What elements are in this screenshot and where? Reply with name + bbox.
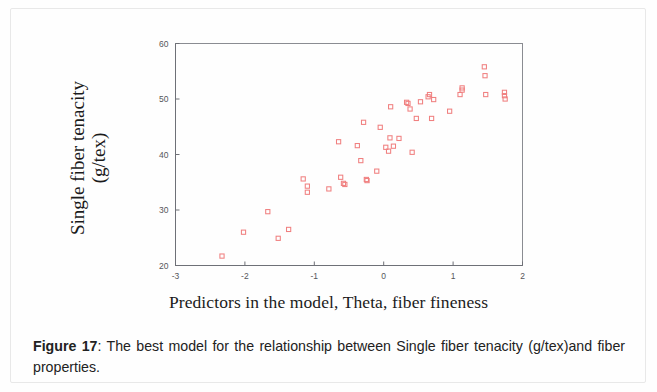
- y-tick-label: 20: [159, 261, 169, 271]
- plot-frame: [176, 44, 523, 266]
- y-tick-label: 40: [159, 150, 169, 160]
- data-point: [408, 107, 412, 111]
- data-point: [305, 184, 309, 188]
- data-point: [220, 254, 224, 258]
- data-point: [361, 120, 365, 124]
- data-point: [276, 236, 280, 240]
- data-point: [410, 150, 414, 154]
- data-point: [241, 230, 245, 234]
- caption-body: The best model for the relationship betw…: [33, 338, 625, 375]
- x-tick-label: 0: [381, 271, 386, 281]
- figure-area: -3-2-10122030405060 Single fiber tenacit…: [0, 0, 657, 325]
- y-axis-label: Single fiber tenacity (g/tex): [46, 38, 130, 278]
- y-tick-label: 30: [159, 205, 169, 215]
- data-point: [391, 144, 395, 148]
- data-point: [483, 74, 487, 78]
- axis-tick-labels: -3-2-10122030405060: [159, 39, 525, 281]
- data-point: [388, 136, 392, 140]
- data-point: [432, 97, 436, 101]
- y-axis-label-line1: Single fiber tenacity: [67, 81, 88, 235]
- y-axis-label-line2: (g/tex): [88, 81, 109, 235]
- x-tick-label: -3: [172, 271, 180, 281]
- figure-number: Figure 17: [33, 338, 97, 354]
- figure-caption: Figure 17: The best model for the relati…: [33, 336, 625, 377]
- data-point: [418, 100, 422, 104]
- data-point: [266, 210, 270, 214]
- data-point: [359, 159, 363, 163]
- data-points: [220, 65, 507, 258]
- data-point: [482, 65, 486, 69]
- y-tick-label: 50: [159, 94, 169, 104]
- data-point: [414, 116, 418, 120]
- data-point: [397, 136, 401, 140]
- data-point: [458, 92, 462, 96]
- data-point: [429, 116, 433, 120]
- plot-axes: [176, 44, 523, 266]
- figure-page: -3-2-10122030405060 Single fiber tenacit…: [0, 0, 657, 392]
- data-point: [378, 125, 382, 129]
- y-tick-label: 60: [159, 39, 169, 49]
- data-point: [355, 144, 359, 148]
- x-tick-label: -2: [241, 271, 249, 281]
- axis-ticks: [176, 44, 523, 266]
- x-tick-label: 1: [451, 271, 456, 281]
- data-point: [448, 109, 452, 113]
- data-point: [336, 140, 340, 144]
- x-tick-label: 2: [520, 271, 525, 281]
- x-tick-label: -1: [311, 271, 319, 281]
- data-point: [327, 187, 331, 191]
- data-point: [484, 92, 488, 96]
- data-point: [339, 175, 343, 179]
- data-point: [287, 227, 291, 231]
- data-point: [375, 169, 379, 173]
- data-point: [389, 105, 393, 109]
- data-point: [301, 177, 305, 181]
- x-axis-label: Predictors in the model, Theta, fiber fi…: [0, 292, 657, 313]
- data-point: [305, 190, 309, 194]
